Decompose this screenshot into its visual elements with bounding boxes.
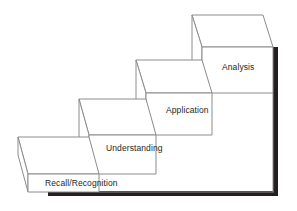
step-label-application: Application — [166, 105, 209, 115]
step-understanding-top — [79, 99, 156, 135]
step-application-top — [136, 60, 212, 93]
step-recall-top — [18, 137, 99, 174]
staircase-diagram: Recall/Recognition Understanding Applica… — [0, 0, 297, 211]
step-label-analysis: Analysis — [222, 62, 254, 72]
right-shadow-bar — [273, 47, 278, 193]
step-label-understanding: Understanding — [106, 143, 163, 153]
step-label-recall: Recall/Recognition — [45, 178, 118, 188]
step-understanding-front — [89, 135, 156, 174]
step-analysis-top — [192, 15, 273, 47]
